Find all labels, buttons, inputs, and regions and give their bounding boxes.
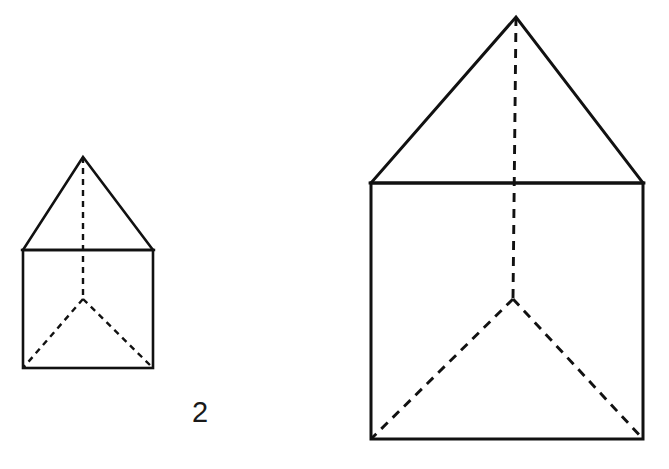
small-prism-roof-face — [23, 157, 153, 250]
small-prism-figure — [22, 157, 154, 368]
diagram-canvas — [0, 0, 669, 469]
large-prism-figure — [370, 17, 644, 439]
large-prism-body-face — [371, 183, 643, 439]
scale-factor-label: 2 — [192, 398, 208, 427]
large-prism-roof-face — [371, 17, 643, 183]
